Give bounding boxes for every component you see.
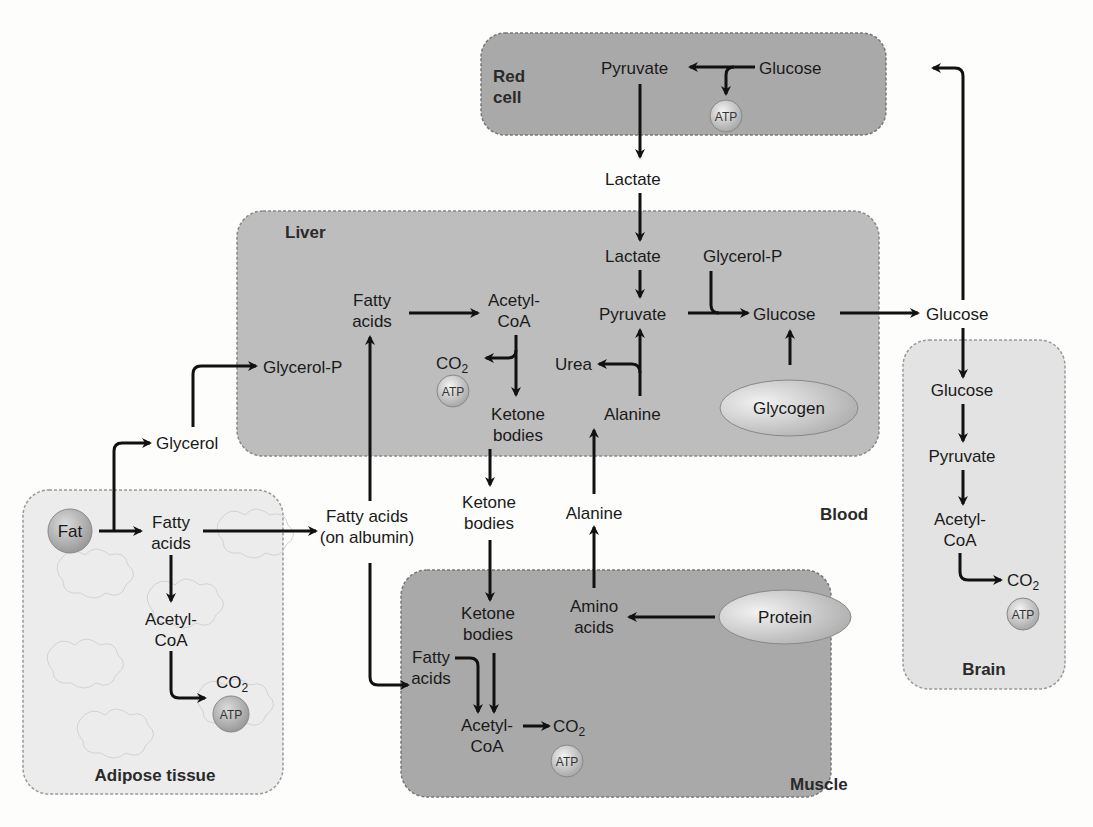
muscle-fatty-acids-2: acids bbox=[411, 669, 451, 688]
muscle-fatty-acids: Fatty bbox=[412, 648, 450, 667]
adipose-fatty-acids: Fatty bbox=[152, 513, 190, 532]
liver-glucose: Glucose bbox=[753, 305, 815, 324]
blood-label: Blood bbox=[820, 505, 868, 524]
blood-lactate: Lactate bbox=[605, 170, 661, 189]
adipose-label: Adipose tissue bbox=[95, 766, 216, 785]
arrow-blood-glucose-to-rbc bbox=[933, 68, 963, 300]
liver-lactate: Lactate bbox=[605, 247, 661, 266]
adipose-fatty-acids-2: acids bbox=[151, 534, 191, 553]
muscle-ketone-bodies: Ketone bbox=[461, 604, 515, 623]
blood-alanine: Alanine bbox=[566, 504, 623, 523]
liver-urea: Urea bbox=[555, 355, 592, 374]
muscle-amino-acids: Amino bbox=[570, 597, 618, 616]
brain-label: Brain bbox=[962, 660, 1005, 679]
red-cell-box bbox=[481, 33, 886, 135]
brain-acetyl-coa-2: CoA bbox=[943, 531, 977, 550]
liver-acetyl-coa-2: CoA bbox=[497, 312, 531, 331]
muscle-acetyl-coa: Acetyl- bbox=[461, 716, 513, 735]
adipose-fat: Fat bbox=[58, 522, 83, 541]
liver-glycerol-p-2: Glycerol-P bbox=[703, 247, 782, 266]
blood-glucose: Glucose bbox=[926, 305, 988, 324]
red-cell-label-2: cell bbox=[493, 88, 521, 107]
liver-fatty-acids: Fatty bbox=[353, 291, 391, 310]
liver-alanine: Alanine bbox=[604, 405, 661, 424]
liver-glycerol-p: Glycerol-P bbox=[263, 358, 342, 377]
blood-fatty-acids-2: (on albumin) bbox=[320, 528, 415, 547]
muscle-ketone-bodies-2: bodies bbox=[463, 625, 513, 644]
muscle-protein: Protein bbox=[758, 608, 812, 627]
brain-acetyl-coa: Acetyl- bbox=[934, 510, 986, 529]
liver-acetyl-coa: Acetyl- bbox=[488, 291, 540, 310]
adipose-atp: ATP bbox=[220, 708, 242, 722]
liver-pyruvate: Pyruvate bbox=[599, 305, 666, 324]
blood-ketone-bodies-2: bodies bbox=[464, 514, 514, 533]
red-cell-glucose: Glucose bbox=[759, 59, 821, 78]
brain-pyruvate: Pyruvate bbox=[928, 447, 995, 466]
muscle-atp: ATP bbox=[556, 755, 578, 769]
liver-glycogen: Glycogen bbox=[753, 399, 825, 418]
liver-label: Liver bbox=[285, 223, 326, 242]
liver-ketone-bodies-2: bodies bbox=[493, 426, 543, 445]
adipose-acetyl-coa: Acetyl- bbox=[145, 610, 197, 629]
metabolic-diagram: Red cell Pyruvate Glucose ATP Lactate Li… bbox=[0, 0, 1093, 827]
red-cell-atp: ATP bbox=[715, 110, 737, 124]
brain-atp: ATP bbox=[1012, 608, 1034, 622]
liver-atp: ATP bbox=[442, 385, 464, 399]
muscle-label: Muscle bbox=[790, 775, 848, 794]
blood-glycerol: Glycerol bbox=[156, 434, 218, 453]
adipose-acetyl-coa-2: CoA bbox=[154, 631, 188, 650]
liver-ketone-bodies: Ketone bbox=[491, 405, 545, 424]
blood-ketone-bodies: Ketone bbox=[462, 493, 516, 512]
muscle-acetyl-coa-2: CoA bbox=[470, 737, 504, 756]
muscle-amino-acids-2: acids bbox=[574, 618, 614, 637]
blood-fatty-acids: Fatty acids bbox=[326, 507, 408, 526]
brain-glucose: Glucose bbox=[931, 381, 993, 400]
red-cell-label: Red bbox=[493, 67, 525, 86]
liver-fatty-acids-2: acids bbox=[352, 312, 392, 331]
red-cell-pyruvate: Pyruvate bbox=[601, 59, 668, 78]
